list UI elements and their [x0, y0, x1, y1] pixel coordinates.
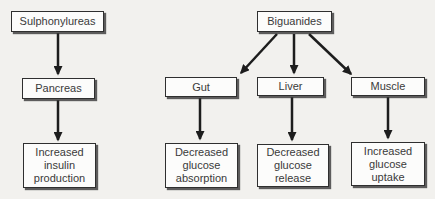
drug-box-sulphonylureas: Sulphonylureas [11, 11, 104, 32]
organ-box-muscle: Muscle [351, 77, 425, 96]
arrow-biguanides-to-gut [241, 34, 277, 73]
effect-box-decreased-glucose-absorption: Decreased glucose absorption [165, 143, 238, 188]
arrow-biguanides-to-muscle [309, 34, 351, 74]
drug-box-biguanides: Biguanides [257, 11, 332, 32]
flow-diagram: Sulphonylureas Pancreas Increased insuli… [0, 0, 435, 199]
organ-box-gut: Gut [165, 77, 237, 97]
effect-box-increased-insulin-production: Increased insulin production [23, 143, 96, 188]
effect-box-increased-glucose-uptake: Increased glucose uptake [351, 142, 425, 186]
effect-box-decreased-glucose-release: Decreased glucose release [257, 144, 329, 187]
organ-box-liver: Liver [257, 77, 324, 96]
organ-box-pancreas: Pancreas [22, 78, 95, 99]
